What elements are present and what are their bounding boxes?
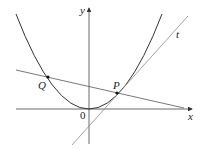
x-axis-label: x	[187, 110, 193, 122]
diagram-canvas: y x 0 Q P t	[0, 0, 204, 150]
origin-label: 0	[80, 109, 86, 121]
tangent-label: t	[176, 28, 180, 40]
point-p-label: P	[112, 79, 120, 91]
point-q-label: Q	[38, 79, 46, 91]
point-q	[46, 75, 49, 78]
point-p	[115, 91, 118, 94]
parabola-diagram: y x 0 Q P t	[0, 0, 204, 150]
y-axis-label: y	[79, 4, 85, 16]
